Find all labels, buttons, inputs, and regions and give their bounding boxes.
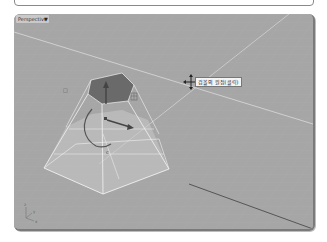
caret-down-icon[interactable]: ▼ xyxy=(44,15,48,23)
svg-text:z: z xyxy=(24,202,26,207)
3d-scene[interactable]: □ c z y x xyxy=(14,14,313,229)
cursor-tooltip: 검볼의 원점(클릭) xyxy=(195,77,242,87)
gumball-origin xyxy=(104,117,107,120)
command-input-box[interactable] xyxy=(14,0,314,6)
perspective-viewport[interactable]: □ c z y x Perspective ▼ 검볼의 원점(클릭) xyxy=(14,14,315,231)
handle-label: □ xyxy=(63,87,68,93)
origin-label: c xyxy=(106,149,109,155)
